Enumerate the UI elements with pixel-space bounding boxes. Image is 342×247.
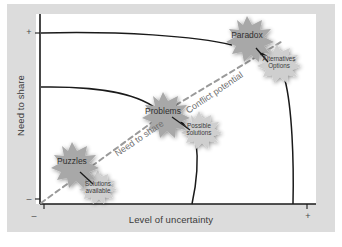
y-axis-title: Need to share [15,56,26,156]
x-axis-max-tick-label: + [301,211,315,221]
y-axis-min-tick-label: – [22,194,36,204]
x-axis-title: Level of uncertainty [0,214,342,225]
x-axis-min-tick-label: – [27,211,41,221]
diagram-graphics [0,0,342,247]
figure-container: Puzzles Solutions available Problems Pos… [0,0,342,247]
star-paradox [226,16,274,62]
y-axis-max-tick-label: + [22,27,36,37]
